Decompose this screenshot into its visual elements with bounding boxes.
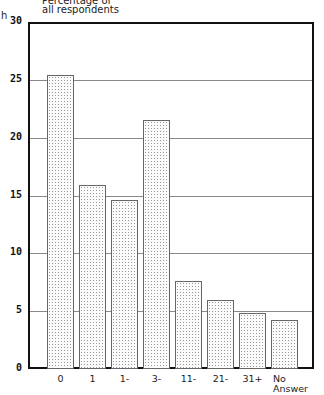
y-tick-label: 5 [0, 304, 22, 315]
bar [143, 120, 170, 369]
bar [207, 300, 234, 369]
bar [175, 281, 202, 369]
bar [239, 313, 266, 369]
y-tick-label: 30 [0, 15, 22, 26]
y-axis-label-line2: all respondents [42, 5, 119, 14]
y-tick-label: 10 [0, 246, 22, 257]
bar [271, 320, 298, 369]
bar [79, 185, 106, 369]
y-tick-label: 25 [0, 73, 22, 84]
bar [111, 200, 138, 369]
bar [47, 75, 74, 369]
y-tick-label: 15 [0, 189, 22, 200]
y-tick-label: 0 [0, 362, 22, 373]
x-tick-label: NoAnswer [273, 374, 313, 394]
y-axis-label: Percentage of all respondents [42, 0, 119, 14]
y-tick-label: 20 [0, 131, 22, 142]
x-tick-label: 31+ [233, 374, 273, 384]
